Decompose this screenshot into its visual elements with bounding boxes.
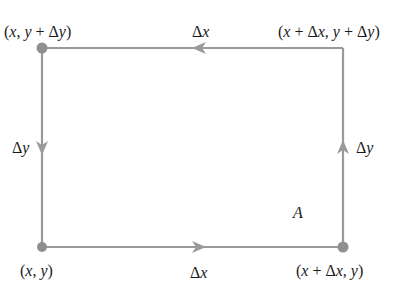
- point-bottom-left: [37, 242, 47, 252]
- label-top-left: (x, y + Δy): [4, 24, 71, 40]
- point-bottom-right: [338, 242, 349, 253]
- label-bottom-left: (x, y): [20, 263, 53, 279]
- label-bottom-edge: Δx: [190, 265, 207, 281]
- point-top-left: [37, 43, 48, 54]
- label-top-right: (x + Δx, y + Δy): [278, 24, 380, 40]
- label-right-edge: Δy: [356, 140, 373, 156]
- label-bottom-right: (x + Δx, y): [296, 263, 363, 279]
- label-left-edge: Δy: [12, 140, 29, 156]
- label-top-edge: Δx: [192, 24, 209, 40]
- area-label: A: [293, 205, 303, 221]
- rectangle-diagram: [0, 0, 414, 299]
